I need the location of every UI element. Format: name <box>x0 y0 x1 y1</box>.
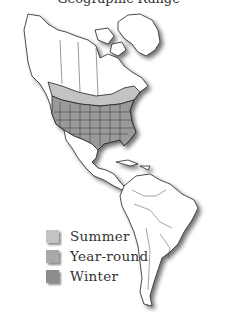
legend-item-year-round: Year-round <box>46 246 148 266</box>
legend-label: Winter <box>70 268 118 284</box>
legend-item-summer: Summer <box>46 226 148 246</box>
winter-swatch <box>46 270 59 283</box>
year-round-swatch <box>46 250 59 263</box>
legend-item-winter: Winter <box>46 266 148 286</box>
legend-label: Summer <box>70 228 130 244</box>
caribbean-shape <box>116 160 150 170</box>
legend-label: Year-round <box>70 248 148 264</box>
summer-swatch <box>46 230 59 243</box>
map-legend: Summer Year-round Winter <box>46 226 148 286</box>
